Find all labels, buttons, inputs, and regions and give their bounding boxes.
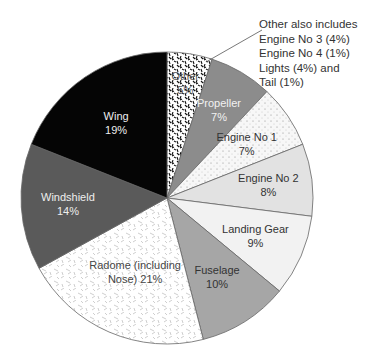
annotation-leader-line <box>206 30 262 62</box>
annotation-line: Engine No 3 (4%) <box>259 32 357 47</box>
annotation-line: Engine No 4 (1%) <box>259 46 357 61</box>
annotation-line: Lights (4%) and <box>259 61 357 76</box>
annotation-line: Other also includes <box>259 17 357 32</box>
annotation-line: Tail (1%) <box>259 75 357 90</box>
other-annotation: Other also includes Engine No 3 (4%) Eng… <box>259 17 357 90</box>
